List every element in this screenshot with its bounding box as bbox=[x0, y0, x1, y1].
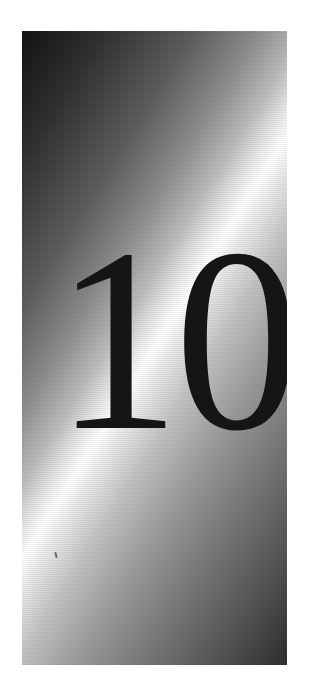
chapter-number: 10 bbox=[55, 209, 276, 471]
chapter-number-panel: 10 bbox=[22, 31, 287, 665]
scan-artifact bbox=[54, 552, 57, 558]
page: 10 bbox=[0, 0, 318, 700]
